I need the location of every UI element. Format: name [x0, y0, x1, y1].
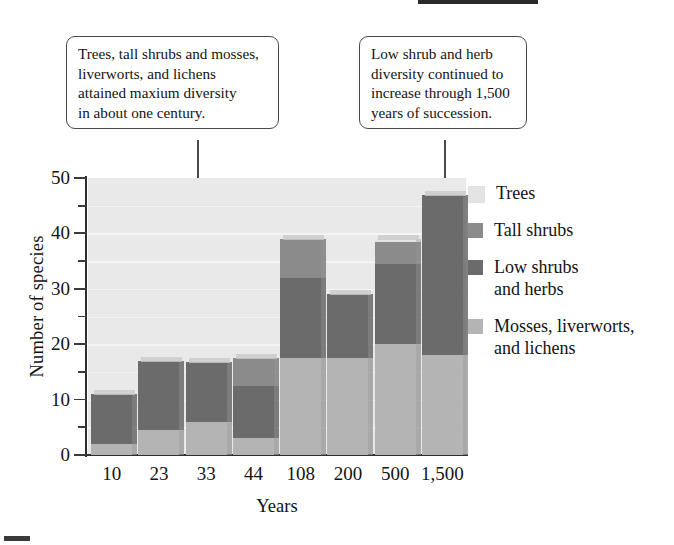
bar-segment-shadow: [368, 358, 373, 455]
y-tick-major: [74, 399, 87, 401]
bar-44[interactable]: [233, 358, 274, 455]
legend-item[interactable]: Trees: [468, 182, 674, 204]
bar-segment: [422, 355, 463, 455]
x-tick-label: 1,500: [413, 463, 472, 485]
y-tick-major: [74, 177, 87, 179]
bar-segment-shadow: [321, 358, 326, 455]
bar-segment-shadow: [274, 438, 279, 455]
y-tick-major: [74, 454, 87, 456]
bar-segment: [233, 358, 274, 386]
bar-top-cap: [378, 235, 419, 240]
legend-swatch-icon: [468, 260, 483, 275]
bar-segment: [138, 361, 179, 430]
bar-top-cap: [94, 390, 135, 395]
legend-item[interactable]: Mosses, liverworts, and lichens: [468, 315, 674, 359]
bar-segment: [91, 444, 132, 455]
bar-segment: [327, 294, 368, 358]
bar-10[interactable]: [91, 394, 132, 455]
bar-segment-shadow: [274, 358, 279, 386]
bar-segment-shadow: [321, 239, 326, 278]
bar-segment: [375, 242, 416, 264]
bar-108[interactable]: [280, 239, 321, 455]
bar-segment: [233, 386, 274, 439]
bar-1500[interactable]: [422, 195, 463, 455]
bar-segment-shadow: [227, 422, 232, 455]
legend-label: Tall shrubs: [494, 219, 573, 241]
bar-segment: [327, 358, 368, 455]
bar-200[interactable]: [327, 294, 368, 455]
y-tick-minor: [78, 205, 87, 207]
chart-legend: TreesTall shrubsLow shrubs and herbsMoss…: [468, 182, 674, 374]
bar-segment-shadow: [416, 264, 421, 344]
bar-segment-shadow: [227, 362, 232, 422]
bar-top-cap: [283, 235, 324, 240]
bar-segment-shadow: [368, 294, 373, 358]
bar-segment: [91, 394, 132, 444]
y-tick-label: 0: [30, 445, 70, 464]
y-axis-title: Number of species: [27, 187, 48, 427]
bar-segment-shadow: [179, 361, 184, 430]
bar-segment: [280, 358, 321, 455]
bar-segment-shadow: [132, 444, 137, 455]
legend-swatch-icon: [468, 319, 483, 334]
x-axis-title: Years: [88, 496, 466, 517]
legend-label: Low shrubs and herbs: [494, 256, 579, 300]
y-tick-minor: [78, 316, 87, 318]
bar-33[interactable]: [186, 362, 227, 455]
bar-segment-shadow: [416, 344, 421, 455]
legend-swatch-icon: [468, 186, 485, 203]
bar-segment-shadow: [416, 242, 421, 264]
bar-23[interactable]: [138, 361, 179, 455]
y-tick-major: [74, 232, 87, 234]
bar-top-cap: [425, 191, 466, 196]
bar-segment-shadow: [132, 394, 137, 444]
legend-item[interactable]: Tall shrubs: [468, 219, 674, 241]
y-tick-label: 50: [30, 168, 70, 187]
bar-segment: [375, 264, 416, 344]
bar-segment-shadow: [179, 430, 184, 455]
legend-label: Mosses, liverworts, and lichens: [494, 315, 635, 359]
bar-segment: [186, 362, 227, 422]
bar-top-cap: [189, 358, 230, 363]
y-tick-major: [74, 343, 87, 345]
bar-segment-shadow: [274, 386, 279, 439]
y-tick-major: [74, 288, 87, 290]
bar-top-cap: [330, 290, 371, 295]
bar-segment: [138, 430, 179, 455]
y-tick-minor: [78, 371, 87, 373]
bar-500[interactable]: [375, 239, 416, 455]
bar-segment: [280, 239, 321, 278]
bar-segment: [233, 438, 274, 455]
legend-label: Trees: [496, 182, 535, 204]
bar-segment: [280, 278, 321, 358]
y-tick-minor: [78, 426, 87, 428]
bar-segment-shadow: [321, 278, 326, 358]
bar-top-cap: [141, 357, 182, 362]
stacked-bar-chart: 01020304050 Number of species 1023334410…: [0, 0, 674, 545]
y-tick-minor: [78, 260, 87, 262]
legend-swatch-icon: [468, 223, 483, 238]
bar-segment: [422, 195, 463, 356]
legend-item[interactable]: Low shrubs and herbs: [468, 256, 674, 300]
bar-segment: [375, 344, 416, 455]
bar-segment: [186, 422, 227, 455]
bar-top-cap: [236, 354, 277, 359]
gridline: [88, 206, 466, 208]
